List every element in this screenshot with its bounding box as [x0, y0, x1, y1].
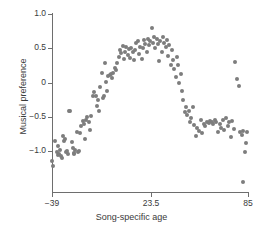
- scatter-point: [237, 84, 241, 88]
- scatter-point: [68, 109, 72, 113]
- scatter-point: [96, 98, 100, 102]
- scatter-point: [100, 71, 104, 75]
- scatter-point: [66, 152, 70, 156]
- scatter-point: [167, 43, 171, 47]
- scatter-point: [58, 148, 62, 152]
- scatter-point: [153, 46, 157, 50]
- scatter-point: [82, 122, 86, 126]
- scatter-point: [188, 120, 192, 124]
- scatter-point: [132, 58, 136, 62]
- scatter-point: [117, 55, 121, 59]
- scatter-point: [98, 85, 102, 89]
- scatter-point: [230, 119, 234, 123]
- scatter-point: [151, 41, 155, 45]
- scatter-point: [233, 60, 237, 64]
- scatter-point: [174, 75, 178, 79]
- scatter-point: [114, 68, 118, 72]
- x-axis-label: Song-specific age: [0, 213, 263, 222]
- scatter-point: [216, 130, 220, 134]
- scatter-point: [51, 164, 55, 168]
- scatter-point: [133, 48, 137, 52]
- scatter-point: [150, 26, 154, 30]
- scatter-point: [222, 128, 226, 132]
- scatter-point: [169, 63, 173, 67]
- scatter-point: [177, 81, 181, 85]
- scatter-point: [104, 80, 108, 84]
- scatter-point: [180, 89, 184, 93]
- scatter-point: [181, 98, 185, 102]
- scatter-point: [115, 61, 119, 65]
- scatter-point: [240, 133, 244, 137]
- scatter-point: [89, 114, 93, 118]
- scatter-point: [157, 59, 161, 63]
- scatter-point: [245, 130, 249, 134]
- scatter-point: [140, 57, 144, 61]
- scatter-point: [63, 137, 67, 141]
- scatter-point: [97, 109, 101, 113]
- scatter-point: [156, 42, 160, 46]
- scatter-point: [110, 76, 114, 80]
- scatter-point: [50, 159, 54, 163]
- scatter-chart-figure: 1.00.50−0.5−1.0−3923.585 Song-specific a…: [0, 0, 263, 234]
- scatter-point: [226, 124, 230, 128]
- scatter-point: [244, 141, 248, 145]
- scatter-point: [175, 55, 179, 59]
- scatter-point: [53, 139, 57, 143]
- scatter-point: [160, 50, 164, 54]
- scatter-point: [179, 72, 183, 76]
- scatter-point: [235, 77, 239, 81]
- scatter-point: [166, 54, 170, 58]
- scatter-point: [83, 137, 87, 141]
- scatter-point: [122, 57, 126, 61]
- scatter-point: [200, 131, 204, 135]
- scatter-point: [105, 89, 109, 93]
- scatter-point: [191, 105, 195, 109]
- data-points-layer: [0, 0, 263, 234]
- scatter-point: [194, 134, 198, 138]
- scatter-point: [187, 109, 191, 113]
- scatter-point: [60, 156, 64, 160]
- scatter-point: [229, 135, 233, 139]
- scatter-point: [172, 67, 176, 71]
- scatter-point: [241, 180, 245, 184]
- scatter-point: [102, 94, 106, 98]
- scatter-point: [78, 131, 82, 135]
- scatter-point: [137, 52, 141, 56]
- scatter-point: [88, 128, 92, 132]
- scatter-point: [70, 140, 74, 144]
- scatter-point: [170, 48, 174, 52]
- scatter-point: [218, 122, 222, 126]
- scatter-point: [176, 63, 180, 67]
- scatter-point: [77, 149, 81, 153]
- scatter-point: [171, 58, 175, 62]
- scatter-point: [141, 46, 145, 50]
- scatter-point: [165, 38, 169, 42]
- scatter-point: [95, 104, 99, 108]
- y-axis-label: Musical preference: [19, 27, 28, 167]
- scatter-point: [136, 39, 140, 43]
- scatter-point: [87, 120, 91, 124]
- scatter-point: [145, 50, 149, 54]
- scatter-point: [103, 61, 107, 65]
- scatter-point: [189, 116, 193, 120]
- scatter-point: [232, 127, 236, 131]
- scatter-point: [243, 150, 247, 154]
